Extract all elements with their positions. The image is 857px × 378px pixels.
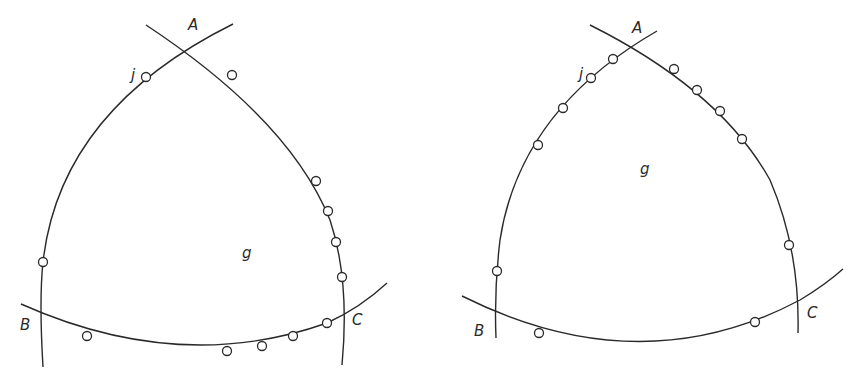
- node-group: [493, 55, 794, 338]
- point-marker: [338, 273, 347, 282]
- point-marker: [751, 318, 760, 327]
- point-marker: [609, 55, 618, 64]
- point-marker: [693, 86, 702, 95]
- point-marker: [323, 319, 332, 328]
- arc-bc: [462, 269, 843, 342]
- region-label-g: g: [242, 244, 252, 262]
- vertex-label-b: B: [474, 322, 484, 340]
- point-marker: [670, 65, 679, 74]
- point-marker: [324, 207, 333, 216]
- arc-bc: [21, 283, 387, 345]
- point-marker: [39, 258, 48, 267]
- point-marker: [258, 342, 267, 351]
- vertex-label-a: A: [187, 16, 198, 34]
- vertex-label-c: C: [352, 311, 363, 329]
- point-marker: [332, 238, 341, 247]
- point-marker: [142, 73, 151, 82]
- arc-ab: [41, 24, 233, 367]
- spherical-triangle-diagrams: A j g B C A j g B C: [0, 0, 857, 378]
- point-marker: [587, 74, 596, 83]
- point-marker: [83, 332, 92, 341]
- point-marker: [289, 332, 298, 341]
- region-label-g: g: [640, 160, 650, 178]
- arc-ac: [146, 25, 344, 365]
- node-group: [39, 71, 347, 356]
- point-label-j: j: [129, 66, 136, 84]
- point-marker: [559, 104, 568, 113]
- arc-ab: [496, 31, 658, 338]
- vertex-label-b: B: [20, 316, 30, 334]
- point-label-j: j: [577, 65, 584, 83]
- left-triangle-diagram: A j g B C: [20, 16, 387, 367]
- point-marker: [493, 267, 502, 276]
- point-marker: [535, 329, 544, 338]
- right-triangle-diagram: A j g B C: [462, 19, 843, 342]
- vertex-label-a: A: [631, 19, 642, 37]
- vertex-label-c: C: [807, 304, 818, 322]
- point-marker: [312, 177, 321, 186]
- point-marker: [223, 347, 232, 356]
- point-marker: [785, 241, 794, 250]
- point-marker: [716, 107, 725, 116]
- point-marker: [534, 141, 543, 150]
- point-marker: [738, 135, 747, 144]
- point-marker: [228, 71, 237, 80]
- arc-ac: [590, 25, 798, 333]
